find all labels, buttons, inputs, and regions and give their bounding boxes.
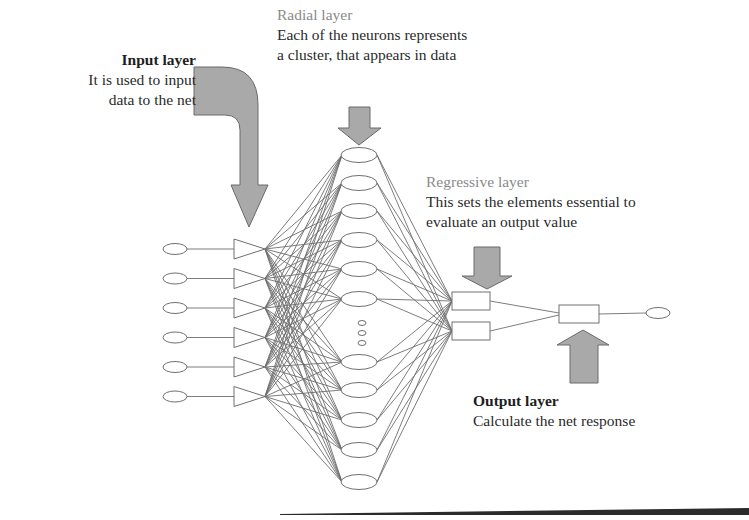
input-to-radial-connections <box>265 155 342 482</box>
radial-node <box>341 475 377 490</box>
radial-layer-desc-line-1: Each of the neurons represents <box>277 25 467 45</box>
regressive-layer-title: Regressive layer <box>426 172 636 192</box>
radial-ellipsis-icon <box>358 321 366 346</box>
input-layer-desc-line-1: It is used to input <box>0 70 196 90</box>
regressive-node <box>452 292 490 310</box>
radial-layer-title: Radial layer <box>277 5 467 25</box>
regressive-node <box>452 322 490 340</box>
output-layer-desc-line-1: Calculate the net response <box>473 411 635 431</box>
radial-node <box>341 176 377 191</box>
radial-node <box>341 148 377 163</box>
radial-node <box>341 262 377 277</box>
bottom-rule <box>280 508 749 515</box>
input-layer-title: Input layer <box>0 50 196 70</box>
radial-node <box>341 413 377 428</box>
output-layer-label: Output layer Calculate the net response <box>473 391 635 431</box>
regressive-layer-desc-line-1: This sets the elements essential to <box>426 192 636 212</box>
input-node <box>163 239 265 259</box>
input-node <box>163 328 265 348</box>
radial-node <box>341 233 377 248</box>
radial-layer-desc-line-2: a cluster, that appears in data <box>277 45 467 65</box>
output-terminal <box>646 308 670 319</box>
radial-node <box>341 292 377 307</box>
input-node <box>163 387 265 407</box>
regressive-layer-down-arrow-icon <box>462 247 512 289</box>
input-layer-nodes <box>163 239 265 407</box>
input-layer-curved-arrow-icon <box>194 67 268 227</box>
input-layer-label: Input layer It is used to input data to … <box>0 50 196 110</box>
regressive-layer-desc-line-2: evaluate an output value <box>426 212 636 232</box>
output-layer-up-arrow-icon <box>557 330 609 383</box>
input-node <box>163 269 265 289</box>
output-layer-title: Output layer <box>473 391 635 411</box>
radial-layer-nodes <box>341 148 377 490</box>
radial-node <box>341 204 377 219</box>
radial-node <box>341 383 377 398</box>
regressive-layer-nodes <box>452 292 490 340</box>
radial-node <box>341 443 377 458</box>
input-layer-desc-line-2: data to the net <box>0 90 196 110</box>
radial-layer-down-arrow-icon <box>338 107 381 145</box>
output-node <box>559 305 599 323</box>
input-node <box>163 357 265 377</box>
regressive-layer-label: Regressive layer This sets the elements … <box>426 172 636 232</box>
radial-node <box>341 355 377 370</box>
radial-layer-label: Radial layer Each of the neurons represe… <box>277 5 467 65</box>
input-node <box>163 298 265 318</box>
